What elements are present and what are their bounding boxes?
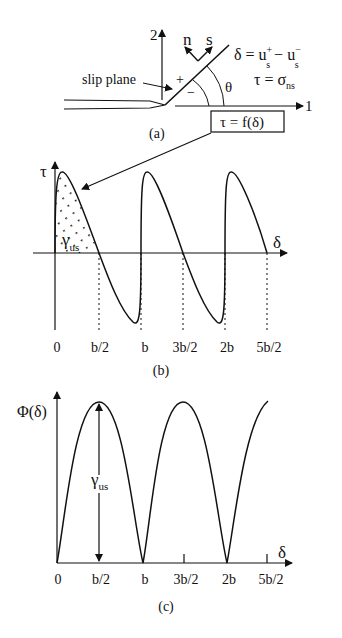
dotted-guides-b (99, 253, 267, 330)
theta-arc-outer (207, 66, 224, 106)
delta-axis-label-b: δ (273, 233, 281, 252)
tick-label: 2b (220, 340, 234, 355)
caption-a: (a) (149, 126, 165, 142)
tick-label: b/2 (91, 340, 109, 355)
minus-sign: − (187, 85, 195, 100)
eq-tau: τ = σns (254, 71, 295, 91)
s-label: s (206, 30, 213, 49)
figure: 2 1 n s slip plane + − θ δ = u+s − u−s τ… (0, 0, 342, 638)
tick-label: 3b/2 (173, 340, 198, 355)
tick-label: b (142, 340, 149, 355)
pointer-arrow (82, 133, 211, 189)
tick-label: 0 (54, 340, 61, 355)
n-arrow (185, 47, 198, 61)
tick-label: b/2 (92, 572, 110, 587)
tau-axis-label: τ (40, 162, 47, 181)
axis-1-label: 1 (305, 98, 313, 114)
ticks-c: 0 b/2 b 3b/2 2b 5b/2 (55, 572, 284, 587)
panel-a: 2 1 n s slip plane + − θ δ = u+s − u−s τ… (64, 27, 313, 189)
tick-label: 5b/2 (257, 340, 282, 355)
axis-2-label: 2 (150, 27, 158, 43)
tick-label: b (142, 572, 149, 587)
slip-plane-label: slip plane (82, 72, 136, 87)
n-label: n (183, 30, 192, 49)
tau-f-delta-label: τ = f(δ) (220, 114, 264, 131)
phi-axis-label: Φ(δ) (17, 403, 47, 421)
eq-delta: δ = u+s − u−s (234, 44, 301, 70)
ticks-b: 0 b/2 b 3b/2 2b 5b/2 (54, 340, 282, 355)
theta-label: θ (225, 79, 232, 95)
phi-curve (57, 401, 268, 563)
theta-arc-inner (193, 80, 209, 106)
slip-plane-pointer (143, 83, 172, 89)
tick-label: 5b/2 (259, 572, 284, 587)
tick-label: 2b (222, 572, 236, 587)
panel-b: τ δ γus 0 b/2 b 3b/2 2b 5b/2 (b) (33, 162, 287, 379)
slip-plane-line (165, 45, 229, 105)
s-arrow (198, 47, 212, 61)
delta-axis-label-c: δ (278, 543, 286, 562)
panel-c: Φ(δ) δ γus 0 b/2 b 3b/2 2b 5b/2 (c) (17, 392, 292, 615)
crack (64, 100, 165, 109)
tick-label: 3b/2 (174, 572, 199, 587)
tick-label: 0 (55, 572, 62, 587)
caption-b: (b) (153, 363, 170, 379)
plus-sign: + (176, 72, 184, 87)
caption-c: (c) (158, 599, 174, 615)
